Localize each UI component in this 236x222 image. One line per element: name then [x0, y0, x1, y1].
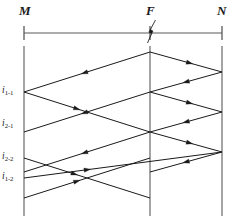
wave-arrowhead-F-to-M-third [81, 150, 88, 154]
wave-arrowhead-M-reflect-4 [73, 180, 80, 184]
travelling-waves-layer [24, 52, 222, 198]
wave-label-i2-2: i2-2 [2, 152, 13, 162]
wave-label-subscript: 2-2 [5, 155, 14, 162]
wave-label-subscript: 2-1 [5, 122, 14, 129]
wave-ray-F-to-N-first [150, 52, 222, 72]
wave-arrowhead-F-to-N-third [186, 140, 193, 144]
bus-label-F: F [146, 4, 155, 17]
time-axes-layer [24, 46, 222, 216]
wave-arrowhead-M-reflect-3 [84, 168, 91, 172]
wave-label-i2-1: i2-1 [2, 119, 13, 129]
wave-arrowhead-N-reflect-2 [183, 119, 190, 123]
wave-label-i1-2: i1-2 [2, 172, 13, 182]
wave-label-subscript: 1-2 [5, 175, 14, 182]
wave-ray-M-reflect-3 [24, 152, 222, 178]
fault-marker-layer [148, 20, 156, 43]
wave-arrowhead-F-to-N-first [186, 60, 193, 64]
bus-label-N: N [217, 4, 226, 17]
wave-arrowhead-N-reflect-3 [183, 159, 190, 163]
wave-label-subscript: 1-1 [5, 89, 14, 96]
lattice-diagram-figure: MFN i1-1i2-1i2-2i1-2 [0, 0, 236, 222]
wave-ray-F-to-N-third [150, 132, 222, 152]
wave-ray-F-to-N-second [150, 92, 222, 112]
wave-arrowhead-F-to-M-first [81, 70, 88, 74]
wave-arrowhead-N-reflect-1 [183, 79, 190, 83]
fault-lightning-symbol [148, 20, 156, 43]
diagram-canvas [0, 0, 236, 222]
wave-arrowhead-M-reflect-1 [73, 106, 80, 110]
wave-arrowhead-F-to-N-second [186, 100, 193, 104]
wave-label-i1-1: i1-1 [2, 86, 13, 96]
single-line-layer [24, 26, 222, 40]
bus-label-M: M [19, 4, 31, 17]
